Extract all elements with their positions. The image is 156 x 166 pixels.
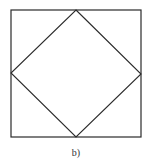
inscribed-diamond	[11, 10, 141, 137]
square-diamond-diagram	[0, 0, 156, 166]
figure-caption: b)	[0, 147, 152, 158]
diagram-figure: b)	[0, 0, 156, 166]
outer-square	[11, 10, 141, 137]
